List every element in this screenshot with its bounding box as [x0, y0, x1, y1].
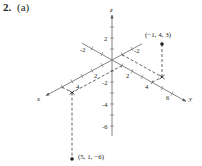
z-axis-label: z — [109, 6, 113, 14]
x-tick-2: 2 — [94, 72, 97, 79]
x-tick-4: 4 — [76, 83, 80, 90]
point-b-dot — [70, 157, 74, 161]
z-tick-neg2: -2 — [102, 79, 107, 86]
z-tick-2: 2 — [104, 35, 107, 42]
y-tick-4: 4 — [145, 83, 149, 90]
y-tick-2: 2 — [126, 72, 129, 79]
coordinate-diagram: z 2 -2 -4 -6 x 2 4 — [0, 0, 202, 166]
y-tick-neg2: -2 — [80, 46, 85, 53]
x-tick-neg2: -2 — [134, 47, 139, 54]
z-tick-neg4: -4 — [102, 101, 108, 108]
y-axis-label: y — [188, 95, 193, 103]
x-axis-label: x — [36, 95, 41, 103]
point-a-label: (−1, 4, 3) — [145, 31, 172, 39]
point-b-label: (5, 1, −6) — [78, 153, 105, 161]
y-tick-6: 6 — [166, 94, 170, 101]
point-a-dot — [160, 42, 164, 46]
z-tick-neg6: -6 — [102, 123, 108, 130]
